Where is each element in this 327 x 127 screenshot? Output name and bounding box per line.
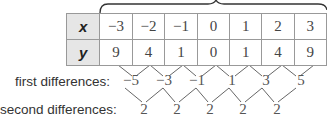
second-difference-value: 2 [173,101,181,118]
table-cell: 3 [294,14,326,40]
first-difference-value: −5 [123,72,139,89]
table-cell: 0 [197,40,229,66]
row-header-y: y [67,40,100,66]
table-cell: 1 [230,14,262,40]
table-cell: −3 [100,14,133,40]
table-cell: 2 [262,14,294,40]
table-row-y: y 9 4 1 0 1 4 9 [67,40,327,66]
table-row-x: x −3 −2 −1 0 1 2 3 [67,14,327,40]
second-difference-value: 2 [140,101,148,118]
second-difference-value: 2 [206,101,214,118]
second-difference-value: 2 [239,101,247,118]
brace [100,0,327,13]
table-cell: −2 [132,14,165,40]
first-differences-label: first differences: [15,74,110,89]
xy-table: x −3 −2 −1 0 1 2 3 y 9 4 1 0 1 4 9 [66,13,327,66]
first-difference-value: 3 [262,72,270,89]
table-cell: 9 [294,40,326,66]
row-header-x: x [67,14,100,40]
table-cell: 1 [230,40,262,66]
table-cell: 4 [132,40,165,66]
table-cell: 1 [165,40,198,66]
table-cell: 9 [100,40,133,66]
table-cell: 0 [197,14,229,40]
first-difference-value: 1 [228,72,236,89]
first-difference-value: −1 [189,72,205,89]
second-differences-label: second differences: [0,102,117,117]
first-difference-value: 5 [297,72,305,89]
table-cell: 4 [262,40,294,66]
first-difference-value: −3 [156,72,172,89]
second-difference-value: 2 [273,101,281,118]
table-cell: −1 [165,14,198,40]
